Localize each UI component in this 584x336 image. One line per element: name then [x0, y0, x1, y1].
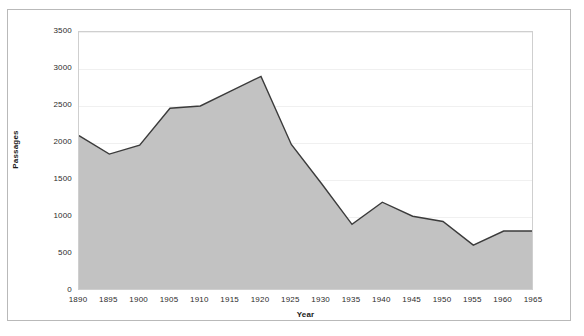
chart-figure: 0500100015002000250030003500 Passages 18…	[0, 0, 584, 336]
y-axis-tick-label: 0	[2, 286, 72, 294]
y-axis-tick-label: 1000	[2, 212, 72, 220]
x-axis-tick-label: 1965	[513, 295, 553, 304]
area-series-passages	[79, 32, 533, 290]
y-axis-tick-label: 3000	[2, 64, 72, 72]
plot-area	[78, 31, 533, 290]
y-axis-tick-label: 2500	[2, 101, 72, 109]
y-axis-tick-label: 3500	[2, 27, 72, 35]
x-axis-tick-labels: 1890189519001905191019151920192519301935…	[78, 295, 533, 309]
area-fill-shape	[79, 76, 533, 290]
y-axis-title: Passages	[11, 110, 20, 190]
y-axis-tick-label: 500	[2, 249, 72, 257]
x-axis-title: Year	[78, 310, 533, 319]
